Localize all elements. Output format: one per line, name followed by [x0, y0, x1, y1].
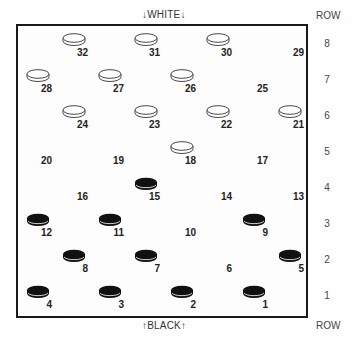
square-number-label: 18	[185, 155, 196, 166]
white-checker-piece-icon[interactable]	[62, 105, 86, 119]
board-square[interactable]: 3	[90, 278, 126, 314]
white-checker-piece-icon[interactable]	[134, 105, 158, 119]
square-number-label: 3	[118, 299, 124, 310]
white-side-label: ↓WHITE↓	[142, 9, 186, 20]
black-side-label: ↑BLACK↑	[142, 320, 186, 331]
square-number-label: 26	[185, 83, 196, 94]
board-square[interactable]: 26	[162, 62, 198, 98]
board-square[interactable]: 13	[270, 170, 306, 206]
row-number: 2	[317, 254, 337, 265]
white-checker-piece-icon[interactable]	[206, 105, 230, 119]
white-checker-piece-icon[interactable]	[170, 141, 194, 155]
square-number-label: 4	[46, 299, 52, 310]
black-checker-piece-icon[interactable]	[242, 285, 266, 299]
board-square[interactable]: 25	[234, 62, 270, 98]
square-number-label: 14	[221, 191, 232, 202]
board-square[interactable]: 6	[198, 242, 234, 278]
row-number: 6	[317, 110, 337, 121]
board-square[interactable]: 24	[54, 98, 90, 134]
board-square[interactable]: 28	[18, 62, 54, 98]
black-checker-piece-icon[interactable]	[134, 177, 158, 191]
board-square[interactable]: 20	[18, 134, 54, 170]
row-number: 8	[317, 38, 337, 49]
black-checker-piece-icon[interactable]	[26, 213, 50, 227]
board-square[interactable]: 4	[18, 278, 54, 314]
board-square[interactable]: 16	[54, 170, 90, 206]
square-number-label: 31	[149, 47, 160, 58]
black-checker-piece-icon[interactable]	[134, 249, 158, 263]
board-square[interactable]: 8	[54, 242, 90, 278]
white-checker-piece-icon[interactable]	[206, 33, 230, 47]
square-number-label: 27	[113, 83, 124, 94]
black-checker-piece-icon[interactable]	[62, 249, 86, 263]
board-square[interactable]: 7	[126, 242, 162, 278]
row-header-top: ROW	[316, 10, 340, 21]
board-square[interactable]: 14	[198, 170, 234, 206]
board-square[interactable]: 2	[162, 278, 198, 314]
row-number: 5	[317, 146, 337, 157]
black-checker-piece-icon[interactable]	[26, 285, 50, 299]
row-number: 4	[317, 182, 337, 193]
board-square[interactable]: 19	[90, 134, 126, 170]
row-number: 1	[317, 290, 337, 301]
board-square[interactable]: 5	[270, 242, 306, 278]
board-square[interactable]: 10	[162, 206, 198, 242]
row-number: 3	[317, 218, 337, 229]
board-square[interactable]: 23	[126, 98, 162, 134]
board-square[interactable]: 32	[54, 26, 90, 62]
white-checker-piece-icon[interactable]	[278, 105, 302, 119]
black-checker-piece-icon[interactable]	[170, 285, 194, 299]
board-square[interactable]: 31	[126, 26, 162, 62]
square-number-label: 2	[190, 299, 196, 310]
white-checker-piece-icon[interactable]	[134, 33, 158, 47]
white-checker-piece-icon[interactable]	[62, 33, 86, 47]
board-square[interactable]: 27	[90, 62, 126, 98]
board-square[interactable]: 18	[162, 134, 198, 170]
black-checker-piece-icon[interactable]	[98, 213, 122, 227]
square-number-label: 15	[149, 191, 160, 202]
square-number-label: 23	[149, 119, 160, 130]
white-checker-piece-icon[interactable]	[26, 69, 50, 83]
board-square[interactable]: 21	[270, 98, 306, 134]
square-number-label: 9	[262, 227, 268, 238]
square-number-label: 30	[221, 47, 232, 58]
black-checker-piece-icon[interactable]	[98, 285, 122, 299]
square-number-label: 16	[77, 191, 88, 202]
square-number-label: 25	[257, 83, 268, 94]
square-number-label: 19	[113, 155, 124, 166]
square-number-label: 20	[41, 155, 52, 166]
square-number-label: 5	[298, 263, 304, 274]
square-number-label: 12	[41, 227, 52, 238]
square-number-label: 17	[257, 155, 268, 166]
square-number-label: 28	[41, 83, 52, 94]
square-number-label: 8	[82, 263, 88, 274]
board-square[interactable]: 9	[234, 206, 270, 242]
square-number-label: 24	[77, 119, 88, 130]
square-number-label: 1	[262, 299, 268, 310]
square-number-label: 21	[293, 119, 304, 130]
square-number-label: 32	[77, 47, 88, 58]
row-header-bottom: ROW	[316, 320, 340, 331]
black-checker-piece-icon[interactable]	[242, 213, 266, 227]
square-number-label: 11	[113, 227, 124, 238]
board-square[interactable]: 17	[234, 134, 270, 170]
board-square[interactable]: 11	[90, 206, 126, 242]
square-number-label: 22	[221, 119, 232, 130]
board-square[interactable]: 15	[126, 170, 162, 206]
board-square[interactable]: 22	[198, 98, 234, 134]
board-square[interactable]: 30	[198, 26, 234, 62]
square-number-label: 10	[185, 227, 196, 238]
black-checker-piece-icon[interactable]	[278, 249, 302, 263]
board-square[interactable]: 29	[270, 26, 306, 62]
square-number-label: 7	[154, 263, 160, 274]
square-number-label: 29	[293, 47, 304, 58]
checkers-board: 3231302928272625242322212019181716151413…	[16, 24, 308, 318]
white-checker-piece-icon[interactable]	[170, 69, 194, 83]
board-square[interactable]: 1	[234, 278, 270, 314]
board-square[interactable]: 12	[18, 206, 54, 242]
row-number: 7	[317, 74, 337, 85]
white-checker-piece-icon[interactable]	[98, 69, 122, 83]
square-number-label: 6	[226, 263, 232, 274]
square-number-label: 13	[293, 191, 304, 202]
